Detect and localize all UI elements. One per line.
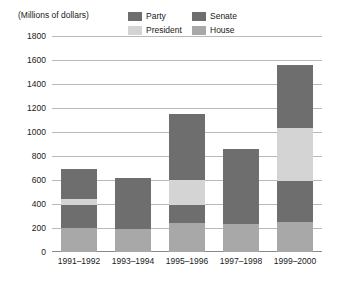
bar-segment-house	[223, 224, 259, 252]
y-axis-tick-label: 800	[32, 152, 46, 161]
bar-segment-senate	[223, 202, 259, 224]
bar-segment-house	[277, 222, 313, 252]
legend-item-senate: Senate	[192, 10, 256, 22]
y-axis-tick-label: 1000	[27, 128, 46, 137]
bar-segment-house	[115, 229, 151, 252]
legend-swatch-icon	[192, 12, 206, 21]
legend-item-party: Party	[128, 10, 192, 22]
bar-segment-party	[169, 114, 205, 180]
bar-segment-party	[115, 178, 151, 213]
legend-item-label: House	[210, 25, 235, 35]
y-axis-tick-label: 0	[41, 248, 46, 257]
bar-segment-senate	[115, 212, 151, 229]
chart-legend: PartySenatePresidentHouse	[128, 10, 328, 36]
legend-item-label: President	[146, 25, 182, 35]
bar-segment-party	[223, 149, 259, 202]
x-axis-labels: 1991–19921993–19941995–19961997–19981999…	[52, 256, 322, 266]
bars-layer	[52, 36, 322, 252]
bar-column	[61, 36, 97, 252]
y-axis-tick-label: 200	[32, 224, 46, 233]
legend-swatch-icon	[192, 26, 206, 35]
bar-column	[115, 36, 151, 252]
bar-segment-party	[277, 65, 313, 129]
legend-swatch-icon	[128, 26, 142, 35]
bar-segment-president	[277, 128, 313, 181]
bar-segment-president	[169, 180, 205, 205]
plot-area: 180016001400120010008006004002000	[52, 36, 322, 252]
bar-column	[277, 36, 313, 252]
bar-segment-senate	[277, 181, 313, 222]
legend-item-president: President	[128, 24, 192, 36]
x-axis-tick-label: 1995–1996	[161, 256, 213, 266]
bar-segment-senate	[169, 205, 205, 223]
y-axis-tick-label: 1600	[27, 56, 46, 65]
bar-segment-house	[61, 228, 97, 252]
y-axis-tick-label: 1800	[27, 32, 46, 41]
y-axis-tick-label: 600	[32, 176, 46, 185]
bar-column	[169, 36, 205, 252]
legend-item-house: House	[192, 24, 256, 36]
stacked-bar-chart: (Millions of dollars) PartySenatePreside…	[0, 0, 338, 289]
legend-swatch-icon	[128, 12, 142, 21]
legend-item-label: Party	[146, 11, 166, 21]
y-axis-tick-label: 1400	[27, 80, 46, 89]
x-axis-tick-label: 1991–1992	[53, 256, 105, 266]
y-axis-tick-label: 400	[32, 200, 46, 209]
y-axis-tick-label: 1200	[27, 104, 46, 113]
x-axis-tick-label: 1993–1994	[107, 256, 159, 266]
bar-segment-party	[61, 169, 97, 199]
x-axis-tick-label: 1997–1998	[215, 256, 267, 266]
y-axis-unit-caption: (Millions of dollars)	[18, 10, 89, 21]
bar-segment-house	[169, 223, 205, 252]
x-axis-tick-label: 1999–2000	[269, 256, 321, 266]
legend-item-label: Senate	[210, 11, 237, 21]
bar-column	[223, 36, 259, 252]
bar-segment-senate	[61, 205, 97, 228]
